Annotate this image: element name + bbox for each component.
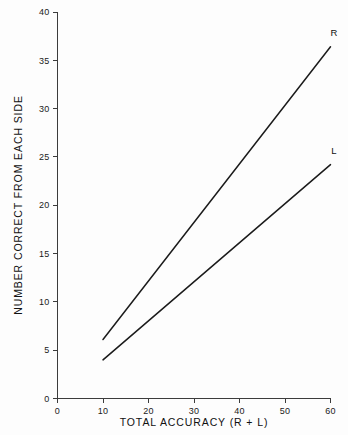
x-tick-label: 50 [280, 406, 291, 416]
x-axis-ticks [58, 399, 331, 404]
series-end-labels: RL [330, 27, 337, 156]
y-tick-label: 40 [39, 7, 50, 17]
line-chart: 0510152025303540 0102030405060 RL TOTAL … [0, 0, 348, 435]
chart-figure: 0510152025303540 0102030405060 RL TOTAL … [0, 0, 348, 435]
series-label-R: R [330, 27, 337, 38]
y-tick-label: 35 [39, 56, 50, 66]
y-axis-ticks [53, 12, 58, 399]
x-tick-label: 40 [234, 406, 245, 416]
y-axis-tick-labels: 0510152025303540 [39, 7, 50, 404]
x-tick-label: 10 [98, 406, 109, 416]
x-tick-label: 0 [55, 406, 60, 416]
x-axis-title: TOTAL ACCURACY (R + L) [120, 416, 269, 428]
x-tick-label: 30 [189, 406, 200, 416]
y-tick-label: 30 [39, 104, 50, 114]
series-label-L: L [331, 145, 337, 156]
y-tick-label: 15 [39, 249, 50, 259]
y-axis-title: NUMBER CORRECT FROM EACH SIDE [12, 95, 24, 315]
y-tick-label: 5 [44, 345, 49, 355]
x-axis-tick-labels: 0102030405060 [55, 406, 336, 416]
y-tick-label: 20 [39, 200, 50, 210]
y-tick-label: 25 [39, 152, 50, 162]
data-series-group [103, 47, 331, 360]
x-tick-label: 20 [143, 406, 154, 416]
y-tick-label: 10 [39, 297, 50, 307]
y-tick-label: 0 [44, 394, 49, 404]
x-tick-label: 60 [325, 406, 336, 416]
